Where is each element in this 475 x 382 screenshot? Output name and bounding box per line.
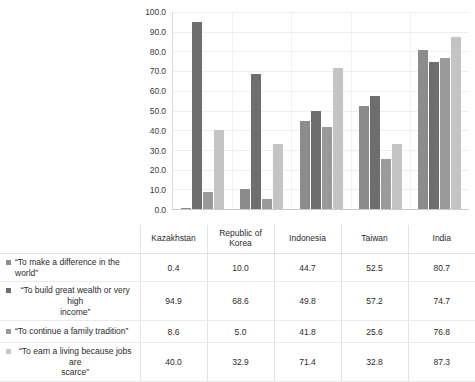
legend-entry: “To continue a family tradition”: [0, 321, 140, 343]
bar: [440, 58, 450, 209]
table-value-cell: 57.2: [341, 282, 408, 321]
y-axis-tick-label: 100.0: [145, 7, 166, 17]
bar: [429, 62, 439, 209]
table-row: “To make a difference in the world”0.410…: [0, 254, 475, 282]
bar: [203, 192, 213, 209]
table-value-cell: 94.9: [140, 282, 207, 321]
bar: [251, 74, 261, 209]
table-value-cell: 71.4: [274, 343, 341, 382]
bar-group: [351, 12, 410, 209]
table-body: “To make a difference in the world”0.410…: [0, 254, 475, 382]
bar: [262, 199, 272, 209]
bar-group: [291, 12, 350, 209]
y-axis-tick-label: 80.0: [150, 47, 166, 57]
bar: [181, 208, 191, 209]
legend-label: “To make a difference in the world”: [15, 257, 136, 278]
bar-group: [173, 12, 232, 209]
artifact-text: · · ·: [0, 0, 11, 3]
table-value-cell: 25.6: [341, 321, 408, 343]
bar: [300, 121, 310, 209]
table-value-cell: 68.6: [207, 282, 274, 321]
table-header-row: KazakhstanRepublic ofKoreaIndonesiaTaiwa…: [0, 225, 475, 254]
bar: [273, 144, 283, 209]
bar: [370, 96, 380, 209]
legend-label: “To continue a family tradition”: [15, 326, 136, 337]
table-value-cell: 8.6: [140, 321, 207, 343]
bar: [311, 111, 321, 209]
bar: [192, 22, 202, 209]
table-corner-cell: [0, 225, 140, 254]
legend-swatch-icon: [6, 349, 11, 354]
plot-area: [172, 12, 469, 210]
data-table: KazakhstanRepublic ofKoreaIndonesiaTaiwa…: [0, 225, 475, 382]
y-axis-tick-label: 70.0: [150, 66, 166, 76]
bar: [381, 159, 391, 209]
legend-label: “To earn a living because jobs arescarce…: [15, 346, 136, 378]
y-axis: 100.090.080.070.060.050.040.030.020.010.…: [126, 12, 170, 210]
bar-group: [232, 12, 291, 209]
y-axis-tick-label: 30.0: [150, 146, 166, 156]
table-value-cell: 0.4: [140, 254, 207, 282]
table-value-cell: 87.3: [408, 343, 475, 382]
table-column-header: Kazakhstan: [140, 225, 207, 254]
bar: [418, 50, 428, 209]
table-value-cell: 49.8: [274, 282, 341, 321]
legend-swatch-icon: [6, 329, 11, 334]
legend-entry: “To earn a living because jobs arescarce…: [0, 343, 140, 382]
y-axis-tick-label: 90.0: [150, 27, 166, 37]
bar: [392, 144, 402, 209]
table-row: “To build great wealth or very highincom…: [0, 282, 475, 321]
y-axis-tick-label: 0.0: [154, 205, 166, 215]
bar: [333, 68, 343, 209]
bar: [214, 130, 224, 209]
table-column-header: Republic ofKorea: [207, 225, 274, 254]
table-row: “To continue a family tradition”8.65.041…: [0, 321, 475, 343]
bar: [240, 189, 250, 209]
legend-entry: “To make a difference in the world”: [0, 254, 140, 282]
table-value-cell: 41.8: [274, 321, 341, 343]
table-value-cell: 76.8: [408, 321, 475, 343]
bar: [322, 127, 332, 209]
legend-entry: “To build great wealth or very highincom…: [0, 282, 140, 321]
y-axis-tick-label: 50.0: [150, 106, 166, 116]
table-value-cell: 80.7: [408, 254, 475, 282]
y-axis-tick-label: 10.0: [150, 185, 166, 195]
table-column-header: Taiwan: [341, 225, 408, 254]
table-value-cell: 44.7: [274, 254, 341, 282]
bar-groups: [173, 12, 469, 209]
bar: [359, 106, 369, 209]
table-value-cell: 74.7: [408, 282, 475, 321]
y-axis-tick-label: 60.0: [150, 86, 166, 96]
table-value-cell: 32.9: [207, 343, 274, 382]
legend-swatch-icon: [6, 288, 11, 293]
table-value-cell: 10.0: [207, 254, 274, 282]
y-axis-tick-label: 40.0: [150, 126, 166, 136]
table-column-header: Indonesia: [274, 225, 341, 254]
table-row: “To earn a living because jobs arescarce…: [0, 343, 475, 382]
bar-chart: 100.090.080.070.060.050.040.030.020.010.…: [0, 8, 475, 225]
table-value-cell: 5.0: [207, 321, 274, 343]
top-edge-artifact: · · ·: [0, 0, 475, 8]
table-column-header: India: [408, 225, 475, 254]
table-value-cell: 32.8: [341, 343, 408, 382]
table-value-cell: 52.5: [341, 254, 408, 282]
table-value-cell: 40.0: [140, 343, 207, 382]
legend-label: “To build great wealth or very highincom…: [15, 285, 136, 317]
bar: [451, 37, 461, 209]
bar-group: [410, 12, 469, 209]
data-table-wrap: KazakhstanRepublic ofKoreaIndonesiaTaiwa…: [0, 225, 475, 339]
legend-swatch-icon: [6, 260, 11, 265]
y-axis-tick-label: 20.0: [150, 165, 166, 175]
